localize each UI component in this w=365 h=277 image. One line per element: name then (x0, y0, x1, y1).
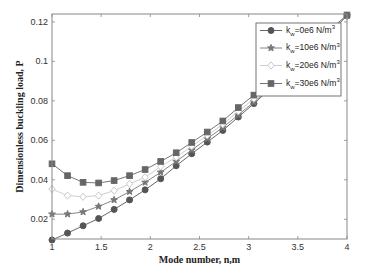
diamond-marker (95, 192, 101, 199)
star-marker (64, 211, 71, 218)
diamond-marker (142, 174, 148, 181)
star-marker (95, 203, 102, 210)
y-tick-label: 0.12 (30, 17, 48, 27)
circle-marker (111, 206, 117, 212)
square-marker (111, 178, 117, 184)
x-tick-label: 4 (344, 242, 349, 252)
square-marker (127, 173, 133, 179)
square-marker (236, 105, 242, 111)
x-tick-label: 1.5 (95, 242, 108, 252)
x-tick-label: 2 (148, 242, 153, 252)
circle-marker (142, 187, 148, 193)
y-axis-label: Dimensionless buckling load, P (14, 60, 25, 192)
diamond-marker (126, 180, 132, 187)
x-tick-label: 3.5 (292, 242, 305, 252)
square-marker (96, 180, 102, 186)
square-marker (173, 150, 179, 156)
square-marker (65, 173, 71, 179)
x-tick-label: 3 (246, 242, 251, 252)
circle-marker (158, 176, 164, 182)
square-marker (220, 118, 226, 124)
star-marker (111, 196, 118, 203)
square-marker (189, 140, 195, 146)
circle-marker (127, 197, 133, 203)
x-tick-label: 1 (49, 242, 54, 252)
circle-marker (80, 223, 86, 229)
y-tick-label: 0.08 (30, 96, 48, 106)
diamond-marker (80, 193, 86, 200)
circle-marker (96, 215, 102, 221)
star-marker (126, 188, 133, 195)
y-tick-label: 0.04 (30, 175, 48, 185)
square-marker (204, 129, 210, 135)
buckling-load-chart: 11.522.533.540.020.040.060.080.10.12 kw=… (0, 0, 365, 277)
y-tick-label: 0.06 (30, 135, 48, 145)
diamond-marker (111, 187, 117, 194)
y-tick-label: 0.1 (35, 56, 48, 66)
square-marker (142, 167, 148, 173)
x-tick-label: 2.5 (193, 242, 206, 252)
circle-legend-icon (268, 28, 274, 34)
square-legend-icon (268, 81, 274, 87)
y-tick-label: 0.02 (30, 214, 48, 224)
circle-marker (65, 230, 71, 236)
square-marker (158, 159, 164, 165)
square-marker (80, 180, 86, 186)
diamond-marker (64, 192, 70, 199)
x-axis-label: Mode number, n,m (159, 254, 241, 265)
star-marker (80, 208, 87, 215)
legend: kw=0e6 N/m3kw=10e6 N/m3kw=20e6 N/m3kw=30… (256, 23, 341, 96)
